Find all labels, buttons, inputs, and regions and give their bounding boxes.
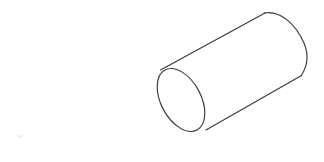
- faint-speck: [17, 135, 22, 138]
- drawing-canvas: Outline line drawing of a three-dimensio…: [0, 0, 324, 162]
- cylinder-figure: Outline line drawing of a three-dimensio…: [0, 0, 324, 162]
